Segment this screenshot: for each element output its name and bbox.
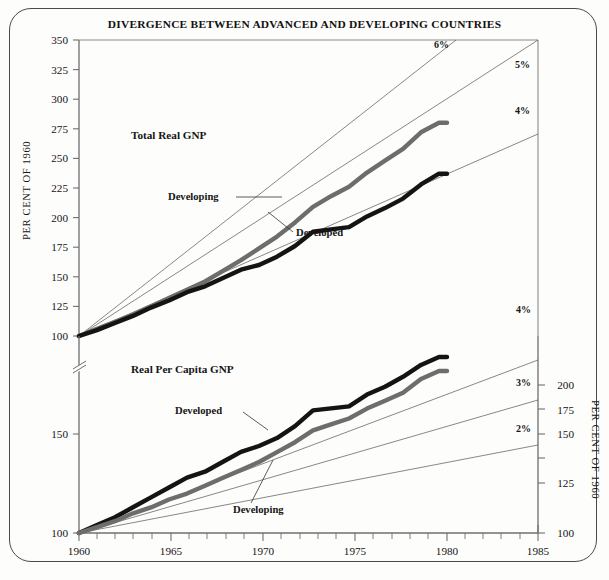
bottom-pct-2-label: 2%: [516, 423, 531, 434]
chart-canvas: 350 325 300 275 250 225 200 175 150 125 …: [0, 0, 609, 580]
top-pct-5-label: 5%: [515, 59, 530, 70]
bottom-right-ytick-150: 150: [557, 428, 574, 440]
xtick-1960: 1960: [68, 545, 91, 557]
top-leader-developed: [268, 212, 293, 232]
bottom-right-ytick-175: 175: [557, 404, 574, 416]
top-ytick-175: 175: [51, 241, 68, 253]
top-refline-6pct: [79, 40, 456, 336]
xtick-1980: 1980: [436, 545, 459, 557]
bottom-refline-2pct: [79, 445, 538, 533]
xtick-1965: 1965: [160, 545, 183, 557]
bottom-pct-3-label: 3%: [516, 377, 531, 388]
top-label-developed: Developed: [296, 227, 343, 238]
bottom-leader-developed: [243, 412, 268, 430]
x-axis-minor-ticks: [97, 533, 520, 539]
top-ytick-200: 200: [51, 212, 68, 224]
top-panel: 350 325 300 275 250 225 200 175 150 125 …: [21, 34, 538, 342]
bottom-refline-3pct: [79, 400, 538, 533]
bottom-left-y-ticks: [73, 434, 79, 533]
top-refline-5pct: [79, 40, 538, 336]
top-y-ticks: [73, 40, 79, 336]
top-ytick-100: 100: [51, 330, 68, 342]
right-axis-title: PER CENT OF 1960: [590, 400, 601, 499]
bottom-right-ytick-125: 125: [557, 477, 574, 489]
top-ytick-150: 150: [51, 271, 68, 283]
chart-page: DIVERGENCE BETWEEN ADVANCED AND DEVELOPI…: [0, 0, 609, 580]
bottom-label-developing: Developing: [233, 504, 284, 515]
bottom-label-developed: Developed: [175, 405, 222, 416]
top-ytick-125: 125: [51, 300, 68, 312]
top-ytick-325: 325: [51, 64, 68, 76]
top-ytick-300: 300: [51, 93, 68, 105]
top-ytick-225: 225: [51, 182, 68, 194]
bottom-ytick-150: 150: [51, 428, 68, 440]
bottom-panel-title: Real Per Capita GNP: [131, 363, 234, 375]
xtick-1970: 1970: [252, 545, 275, 557]
bottom-right-ytick-200: 200: [557, 379, 574, 391]
top-label-developing: Developing: [168, 191, 219, 202]
top-ytick-350: 350: [51, 34, 68, 46]
left-axis-title: PER CENT OF 1960: [21, 141, 32, 240]
bottom-right-ytick-100: 100: [557, 527, 574, 539]
top-ytick-250: 250: [51, 152, 68, 164]
bottom-panel: 150 100 200 175 150 125 100 PER CENT OF …: [51, 304, 601, 557]
bottom-pct-4-label: 4%: [516, 304, 531, 315]
top-pct-6-label: 6%: [434, 39, 449, 50]
bottom-right-y-ticks: [538, 385, 545, 533]
bottom-ytick-100: 100: [51, 527, 68, 539]
xtick-1975: 1975: [344, 545, 367, 557]
top-pct-4-label: 4%: [515, 105, 530, 116]
top-ytick-275: 275: [51, 123, 68, 135]
top-panel-title: Total Real GNP: [131, 129, 207, 141]
top-series-developing: [79, 123, 447, 336]
xtick-1985: 1985: [527, 545, 550, 557]
